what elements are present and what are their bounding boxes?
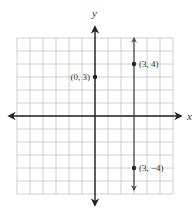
y-axis-label: y <box>91 7 97 19</box>
point-label: (0, 3) <box>71 72 91 82</box>
coordinate-plane: (0, 3)(3, 4)(3, −4) x y <box>0 0 195 209</box>
point-label: (3, 4) <box>139 59 159 69</box>
data-point <box>132 166 136 170</box>
x-axis-label: x <box>186 110 192 122</box>
data-point <box>93 75 97 79</box>
axes <box>9 27 181 205</box>
point-label: (3, −4) <box>139 163 164 173</box>
data-point <box>132 62 136 66</box>
